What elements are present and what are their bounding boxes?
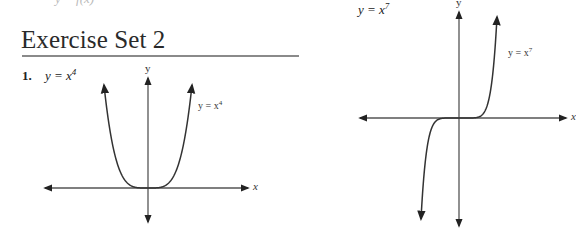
curve-label-base: y = x	[198, 100, 219, 111]
y-axis-label: y	[456, 0, 462, 8]
curve-label-exp: 4	[219, 99, 223, 107]
graph-x7	[360, 12, 566, 226]
curve-label: y = x7	[508, 46, 532, 58]
curve-label: y = x4	[198, 99, 222, 111]
y-axis-label: y	[145, 62, 151, 74]
curve-label-exp: 7	[529, 46, 533, 54]
x-axis-label: x	[253, 180, 258, 192]
curve-label-base: y = x	[508, 47, 529, 58]
x-axis-label: x	[571, 110, 576, 122]
graphs-canvas	[0, 0, 576, 230]
